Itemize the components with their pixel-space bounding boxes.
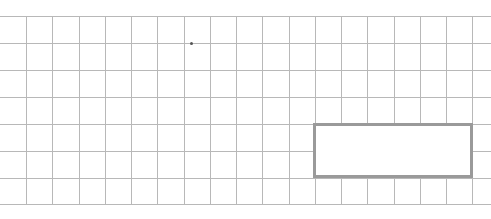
grid-vertical-line bbox=[289, 16, 290, 204]
grid-horizontal-line bbox=[0, 97, 491, 98]
grid-vertical-line bbox=[157, 16, 158, 204]
grid-vertical-line bbox=[26, 16, 27, 204]
grid-horizontal-line bbox=[0, 16, 491, 17]
grid-vertical-line bbox=[210, 16, 211, 204]
grid-vertical-line bbox=[131, 16, 132, 204]
grid-vertical-line bbox=[79, 16, 80, 204]
dot-mark bbox=[190, 42, 193, 45]
grid-horizontal-line bbox=[0, 204, 491, 205]
grid-vertical-line bbox=[52, 16, 53, 204]
highlight-rectangle bbox=[313, 123, 473, 178]
grid-vertical-line bbox=[262, 16, 263, 204]
grid-horizontal-line bbox=[0, 70, 491, 71]
grid-horizontal-line bbox=[0, 43, 491, 44]
grid-horizontal-line bbox=[0, 178, 491, 179]
grid-vertical-line bbox=[236, 16, 237, 204]
grid-vertical-line bbox=[105, 16, 106, 204]
grid-canvas bbox=[0, 0, 491, 219]
grid-vertical-line bbox=[184, 16, 185, 204]
